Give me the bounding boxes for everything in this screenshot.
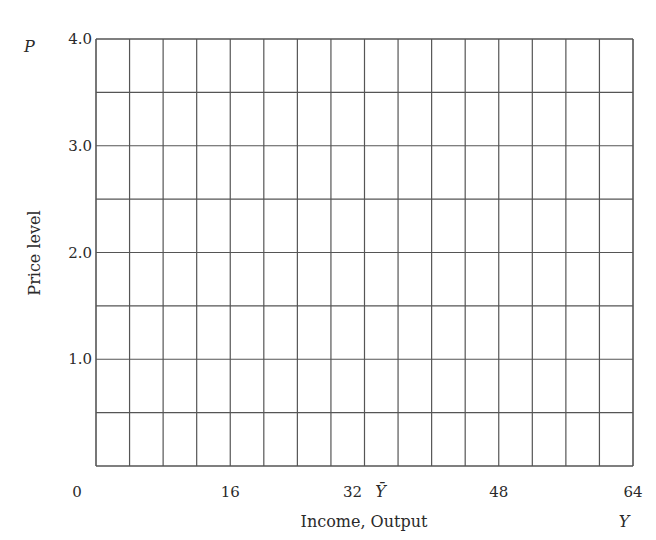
x-tick-label: 32 — [343, 483, 362, 501]
y-axis-symbol: P — [23, 37, 35, 56]
y-tick-label: 3.0 — [68, 137, 92, 155]
y-axis-label: Price level — [25, 210, 44, 295]
x-tick-labels: 016324864 — [72, 483, 642, 501]
x-axis-symbol: Y — [619, 512, 631, 531]
y-tick-label: 2.0 — [68, 244, 92, 262]
y-tick-label: 4.0 — [68, 30, 92, 48]
chart: 1.02.03.04.0 016324864 P Price level Inc… — [0, 0, 656, 540]
x-tick-label: 64 — [623, 483, 642, 501]
x-tick-label: 48 — [489, 483, 508, 501]
x-axis-label: Income, Output — [301, 512, 428, 531]
x-tick-label: 0 — [72, 483, 82, 501]
y-bar-label: Ȳ — [375, 481, 387, 501]
x-tick-label: 16 — [221, 483, 240, 501]
y-bar-annotation: Ȳ — [375, 481, 387, 501]
grid — [96, 39, 633, 466]
y-tick-label: 1.0 — [68, 350, 92, 368]
y-tick-labels: 1.02.03.04.0 — [68, 30, 92, 368]
